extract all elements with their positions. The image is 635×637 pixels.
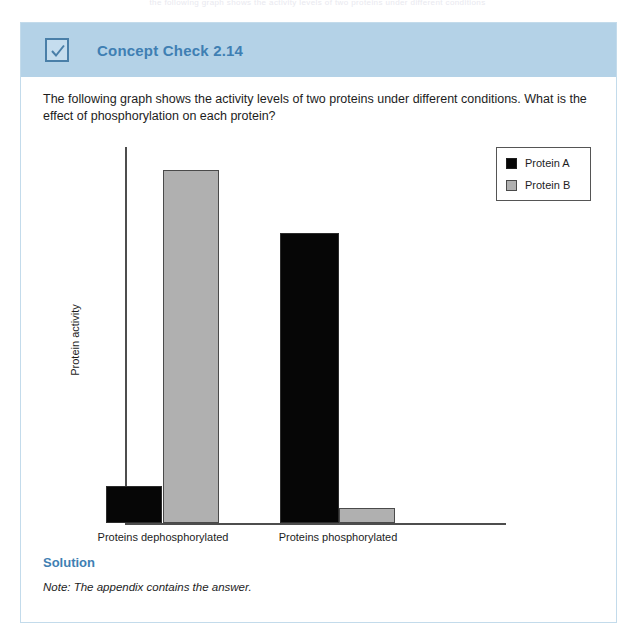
legend-label-protein-a: Protein A [525, 157, 570, 169]
page-title: Concept Check 2.14 [97, 42, 243, 59]
card-header: Concept Check 2.14 [21, 23, 616, 77]
solution-heading: Solution [43, 555, 594, 570]
legend-label-protein-b: Protein B [525, 179, 570, 191]
bar-protein-b-dephosphorylated [163, 170, 219, 523]
bar-chart: Protein activity Proteins dephosphorylat… [43, 139, 596, 551]
concept-check-card: Concept Check 2.14 The following graph s… [20, 22, 617, 623]
bar-protein-a-dephosphorylated [106, 486, 162, 523]
bar-protein-a-phosphorylated [280, 233, 339, 523]
solution-note: Note: The appendix contains the answer. [43, 581, 594, 593]
checkbox-checked-icon [45, 38, 69, 62]
legend-item-protein-a: Protein A [506, 155, 581, 171]
legend-swatch-protein-a-icon [506, 158, 517, 169]
x-axis-tick-label-dephosphorylated: Proteins dephosphorylated [77, 531, 249, 543]
legend-swatch-protein-b-icon [506, 180, 517, 191]
page-top-cutoff-text: the following graph shows the activity l… [0, 0, 635, 10]
bar-protein-b-phosphorylated [339, 508, 395, 523]
x-axis-line [125, 523, 506, 525]
solution-section: Solution Note: The appendix contains the… [43, 555, 594, 593]
y-axis-line [125, 147, 127, 525]
legend-item-protein-b: Protein B [506, 177, 581, 193]
question-text: The following graph shows the activity l… [43, 91, 591, 125]
y-axis-label: Protein activity [69, 280, 81, 400]
chart-legend: Protein A Protein B [496, 147, 591, 201]
card-body: The following graph shows the activity l… [21, 77, 616, 593]
x-axis-tick-label-phosphorylated: Proteins phosphorylated [254, 531, 422, 543]
